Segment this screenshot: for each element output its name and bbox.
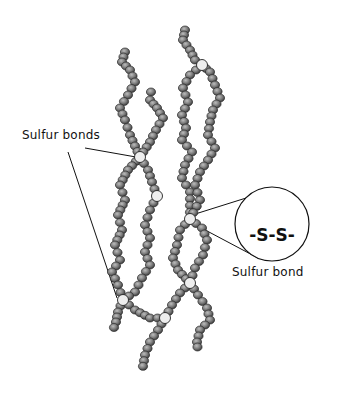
chain-bead <box>113 281 122 289</box>
chain-bead <box>202 236 211 244</box>
chain-bead <box>115 219 124 227</box>
sulfur-bond-marker <box>152 191 163 202</box>
chain-bead <box>190 181 199 189</box>
chain-bead <box>109 324 118 332</box>
chain-bead <box>145 206 154 214</box>
chain-bead <box>174 234 183 242</box>
chain-bead <box>123 124 132 132</box>
chain-bead <box>193 189 202 197</box>
chain-bead <box>138 362 147 370</box>
sulfur-bond-marker <box>185 214 196 225</box>
chain-bead <box>115 181 124 189</box>
chain-bead <box>110 241 119 249</box>
sulfur-bond-label: Sulfur bond <box>232 265 304 279</box>
chain-bead <box>113 249 122 257</box>
sulfur-bond-marker <box>135 152 146 163</box>
chain-bead <box>143 214 152 222</box>
callout-formula: -S-S- <box>235 198 309 272</box>
chain-bead <box>146 88 155 96</box>
chain-bead <box>175 226 184 234</box>
sulfur-bond-marker <box>197 60 208 71</box>
sulfur-bond-marker <box>118 295 129 306</box>
chain-bead <box>120 116 129 124</box>
sulfur-bond-marker <box>185 278 196 289</box>
sulfur-bonds-label: Sulfur bonds <box>22 128 100 142</box>
chain-bead <box>193 343 202 351</box>
chain-bead <box>118 189 127 197</box>
sulfur-bond-marker <box>160 313 171 324</box>
pointer-line-upper <box>85 148 136 157</box>
chain-bead <box>200 244 209 252</box>
chain-bead <box>113 211 122 219</box>
chain-bead <box>190 264 199 272</box>
pointer-line-lower <box>68 152 117 298</box>
